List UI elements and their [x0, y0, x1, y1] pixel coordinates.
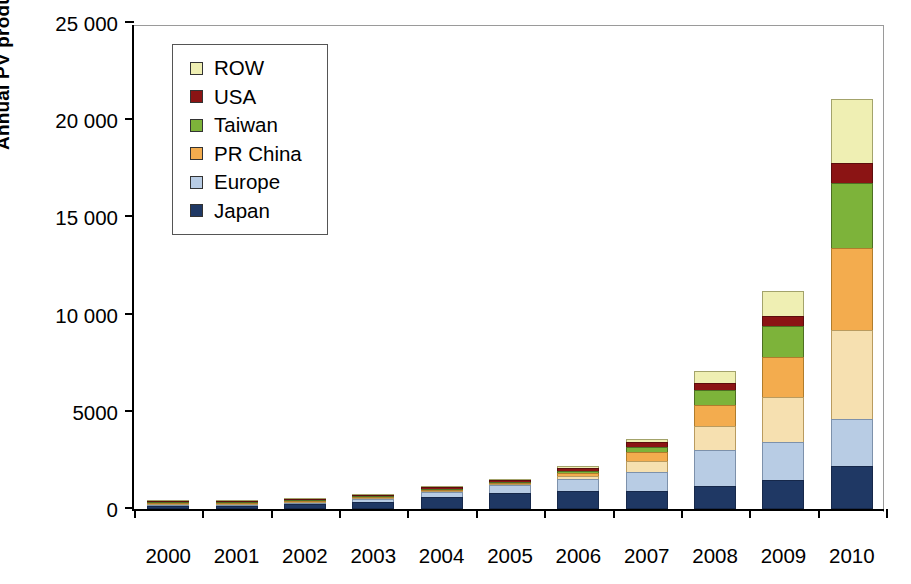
y-axis-tick — [125, 118, 134, 120]
legend-item-label: PR China — [214, 144, 302, 165]
x-axis-tick — [339, 509, 341, 518]
legend-item-label: ROW — [214, 58, 264, 79]
legend-item-pr-china[interactable]: PR China — [173, 140, 327, 169]
bar-2001 — [216, 501, 258, 509]
y-axis-tick-label: 25 000 — [0, 12, 118, 36]
legend-item-label: USA — [214, 87, 256, 108]
bar-2007 — [626, 440, 668, 509]
bar-segment-japan — [147, 506, 189, 509]
bar-segment-taiwan — [831, 183, 873, 249]
bar-segment-japan — [284, 504, 326, 509]
bar-segment-japan — [421, 497, 463, 509]
bar-2002 — [284, 499, 326, 509]
legend-item-taiwan[interactable]: Taiwan — [173, 111, 327, 140]
bar-segment-europe — [831, 419, 873, 468]
chart-legend: ROWUSATaiwanPR ChinaEuropeJapan — [172, 44, 328, 235]
pv-production-stacked-bar-chart: Annual PV production (MW) 0500010 00015 … — [0, 0, 911, 584]
bar-2008 — [694, 372, 736, 509]
legend-item-label: Japan — [214, 201, 270, 222]
legend-item-japan[interactable]: Japan — [173, 197, 327, 226]
x-axis-tick — [134, 509, 136, 518]
bar-segment-japan — [831, 466, 873, 509]
bar-segment-row — [762, 291, 804, 316]
bar-segment-japan — [626, 491, 668, 509]
y-axis-tick — [125, 410, 134, 412]
bar-segment-japan — [489, 493, 531, 509]
bar-2010 — [831, 100, 873, 509]
x-axis-tick — [681, 509, 683, 518]
legend-swatch-icon — [190, 176, 203, 189]
x-axis-tick — [818, 509, 820, 518]
legend-swatch-icon — [190, 119, 203, 132]
x-axis-tick — [476, 509, 478, 518]
bar-segment-pr-china-lower — [831, 330, 873, 420]
x-axis-tick — [544, 509, 546, 518]
legend-item-europe[interactable]: Europe — [173, 168, 327, 197]
bar-segment-pr-china-lower — [762, 397, 804, 442]
x-axis-tick — [271, 509, 273, 518]
y-axis-tick — [125, 215, 134, 217]
bar-segment-japan — [762, 480, 804, 509]
x-axis-tick — [202, 509, 204, 518]
bar-segment-pr-china-upper — [762, 357, 804, 399]
y-axis-tick-label: 0 — [0, 498, 118, 522]
legend-swatch-icon — [190, 62, 203, 75]
bar-segment-europe — [557, 479, 599, 492]
x-axis-tick — [407, 509, 409, 518]
y-axis-tick-label: 20 000 — [0, 109, 118, 133]
legend-swatch-icon — [190, 204, 203, 217]
bar-2003 — [352, 495, 394, 509]
legend-item-label: Europe — [214, 172, 280, 193]
y-axis-tick — [125, 507, 134, 509]
y-axis-tick-label: 15 000 — [0, 206, 118, 230]
bar-segment-japan — [557, 491, 599, 509]
y-axis-tick-label: 10 000 — [0, 304, 118, 328]
x-axis-tick — [613, 509, 615, 518]
bar-segment-japan — [352, 502, 394, 509]
legend-item-usa[interactable]: USA — [173, 83, 327, 112]
legend-item-label: Taiwan — [214, 115, 278, 136]
bar-segment-japan — [694, 486, 736, 509]
y-axis-tick-label: 5000 — [0, 401, 118, 425]
bar-segment-europe — [762, 442, 804, 481]
bar-segment-pr-china-upper — [694, 405, 736, 428]
bar-segment-europe — [626, 472, 668, 493]
x-axis-tick-label: 2010 — [809, 544, 895, 568]
bar-segment-pr-china-lower — [694, 426, 736, 451]
y-axis-tick — [125, 21, 134, 23]
bar-segment-row — [831, 99, 873, 164]
bar-2000 — [147, 501, 189, 509]
bar-segment-taiwan — [694, 390, 736, 406]
bar-2009 — [762, 292, 804, 509]
legend-swatch-icon — [190, 147, 203, 160]
bar-segment-taiwan — [762, 326, 804, 357]
bar-2006 — [557, 467, 599, 509]
bar-segment-pr-china-upper — [831, 248, 873, 331]
bar-segment-japan — [216, 506, 258, 509]
legend-swatch-icon — [190, 90, 203, 103]
x-axis-tick — [749, 509, 751, 518]
bar-segment-usa — [831, 163, 873, 183]
bar-segment-europe — [694, 450, 736, 487]
y-axis-tick — [125, 313, 134, 315]
bar-2005 — [489, 480, 531, 509]
x-axis-tick — [886, 509, 888, 518]
bar-2004 — [421, 487, 463, 509]
legend-item-row[interactable]: ROW — [173, 54, 327, 83]
